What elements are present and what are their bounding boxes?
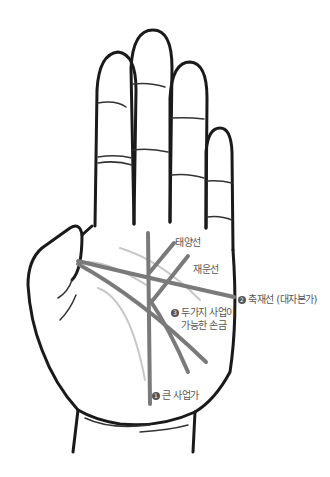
label-accumulation-line: 2축재선 (대자본가) bbox=[238, 294, 317, 306]
palm-diagram: 태양선 재운선 2축재선 (대자본가) 3두가지 사업이 가능한 손금 1큰 사… bbox=[0, 0, 330, 477]
label-sun-line: 태양선 bbox=[175, 237, 201, 249]
hand-illustration bbox=[0, 0, 330, 477]
thumb-outline bbox=[28, 226, 82, 410]
wrist-left bbox=[73, 410, 78, 452]
fate-line bbox=[148, 233, 150, 404]
number-badge-3: 3 bbox=[171, 309, 179, 317]
label-two-businesses: 3두가지 사업이 bbox=[171, 307, 235, 319]
little-finger-outline bbox=[206, 128, 233, 250]
label-big-entrepreneur-text: 큰 사업가 bbox=[162, 390, 199, 401]
wrist-right bbox=[193, 412, 195, 452]
middle-finger-outline bbox=[131, 30, 172, 224]
label-big-entrepreneur: 1큰 사업가 bbox=[152, 390, 199, 402]
label-wealth-line: 재운선 bbox=[193, 264, 219, 276]
label-two-businesses-line1: 두가지 사업이 bbox=[181, 307, 235, 318]
number-badge-2: 2 bbox=[238, 296, 246, 304]
number-badge-1: 1 bbox=[152, 392, 160, 400]
label-accumulation-text: 축재선 (대자본가) bbox=[248, 294, 317, 305]
label-two-businesses-line2: 가능한 손금 bbox=[181, 320, 226, 332]
ring-finger-outline bbox=[170, 62, 207, 228]
